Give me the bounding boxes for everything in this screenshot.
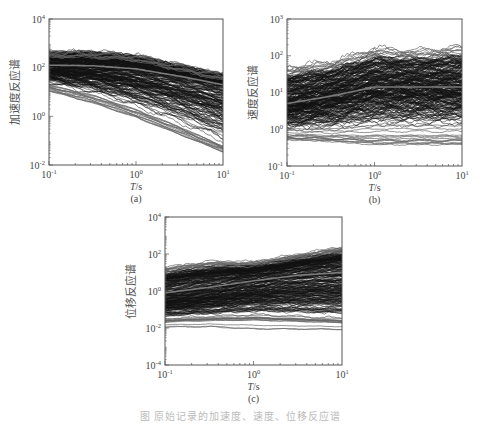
tick-label: 101 (455, 169, 468, 181)
panel-sublabel: (b) (369, 194, 381, 206)
tick-label: 10-1 (279, 169, 294, 181)
plot-area (287, 44, 462, 145)
panel-a: 10-210010210410-1100101T/s(a)加速度反应谱 (8, 13, 230, 206)
panel-sublabel: (a) (130, 193, 141, 205)
panel-b: 10-110010110210310-1100101T/s(b)速度反应谱 (246, 13, 469, 207)
tick-label: 100 (129, 168, 142, 180)
tick-label: 104 (148, 211, 162, 223)
tick-label: 101 (216, 168, 229, 180)
record-spectra (287, 44, 462, 145)
response-spectra-figure: 10-210010210410-1100101T/s(a)加速度反应谱10-11… (0, 0, 481, 424)
tick-label: 103 (270, 13, 283, 25)
x-axis-title: T/s (368, 182, 380, 193)
tick-label: 10-1 (157, 368, 172, 380)
plot-area (165, 247, 342, 330)
panel-c: 10-410-210010210410-1100101T/s(c)位移反应谱 (124, 211, 349, 406)
tick-label: 10-1 (41, 168, 56, 180)
tick-label: 100 (32, 110, 45, 122)
tick-label: 102 (148, 248, 161, 260)
tick-label: 101 (270, 86, 283, 98)
tick-label: 101 (335, 368, 348, 380)
record-spectra (49, 49, 223, 152)
x-axis-title: T/s (247, 381, 259, 392)
tick-label: 100 (148, 285, 161, 297)
tick-label: 104 (32, 13, 46, 25)
tick-label: 10-2 (146, 322, 161, 334)
tick-label: 100 (270, 123, 283, 135)
record-spectra (165, 247, 342, 330)
tick-label: 100 (247, 368, 260, 380)
panel-sublabel: (c) (248, 393, 259, 405)
tick-label: 102 (270, 49, 283, 61)
figure-caption: 图 原始记录的加速度、速度、位移反应谱 (0, 408, 481, 423)
y-axis-title: 速度反应谱 (246, 65, 259, 120)
y-axis-title: 位移反应谱 (124, 264, 137, 319)
x-axis-title: T/s (130, 181, 142, 192)
plot-area (49, 49, 223, 152)
y-axis-title: 加速度反应谱 (8, 59, 21, 125)
tick-label: 102 (32, 61, 45, 73)
tick-label: 100 (368, 169, 381, 181)
